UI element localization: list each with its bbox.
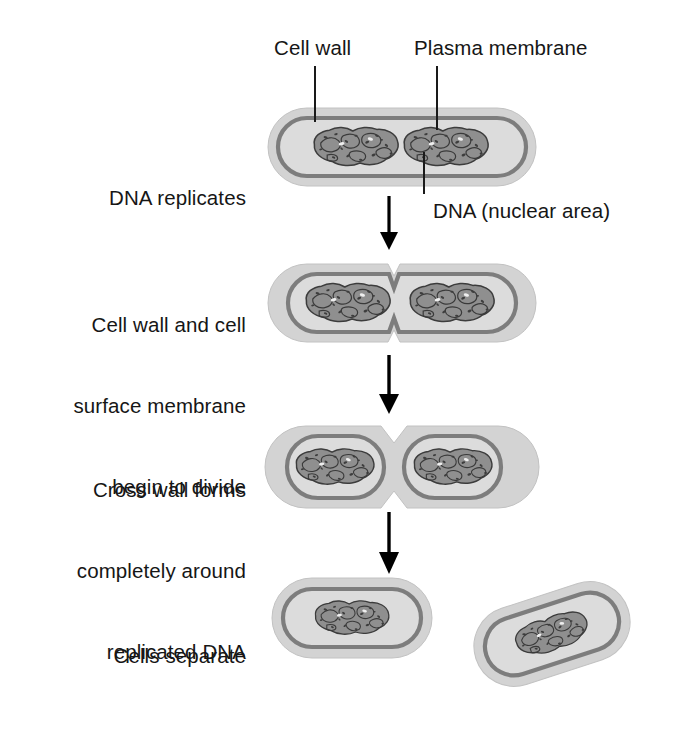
binary-fission-diagram: Cell wall Plasma membrane DNA (nuclear a…	[0, 0, 678, 731]
arrow-3	[379, 512, 399, 574]
callout-label-dna-nuclear-area: DNA (nuclear area)	[433, 197, 610, 224]
arrow-1	[380, 196, 398, 250]
callout-label-plasma-membrane: Plasma membrane	[414, 34, 588, 61]
stage-label-2-line-2: surface membrane	[73, 392, 246, 419]
stage-label-3-line-1: Cross wall forms	[77, 476, 246, 503]
callout-label-cell-wall: Cell wall	[274, 34, 351, 61]
stage-label-2-line-1: Cell wall and cell	[73, 311, 246, 338]
stage-label-4: Cells separate	[114, 588, 246, 723]
stage-label-3-line-2: completely around	[77, 557, 246, 584]
arrow-2	[379, 355, 399, 414]
stage-label-1-line-1: DNA replicates	[109, 184, 246, 211]
stage-label-4-line-1: Cells separate	[114, 642, 246, 669]
stage-label-1: DNA replicates	[109, 130, 246, 265]
